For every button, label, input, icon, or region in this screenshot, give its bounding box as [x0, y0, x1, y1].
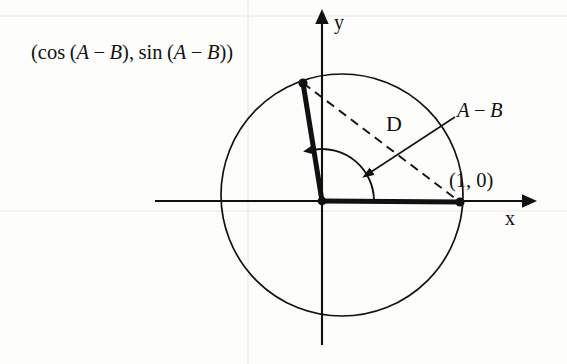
unit-point-label: (1, 0)	[449, 170, 493, 191]
variable-a-2: A	[174, 41, 187, 63]
variable-b-2: B	[207, 41, 220, 63]
initial-side-radius	[322, 201, 460, 202]
terminal-point-marker	[298, 78, 307, 87]
distance-segment-dashed	[303, 83, 460, 202]
variable-a-1: A	[76, 41, 89, 63]
paren-close: )	[226, 41, 233, 63]
angle-minus-sign: −	[474, 99, 486, 121]
comma-separator: ,	[129, 41, 134, 63]
minus-sign-2: −	[191, 41, 203, 63]
unit-point-marker	[455, 197, 464, 206]
x-axis-label: x	[505, 208, 515, 228]
paren-open: (	[31, 41, 38, 63]
terminal-side-radius	[303, 83, 322, 201]
y-axis-label: y	[334, 12, 344, 32]
inner-paren-open-2: (	[167, 41, 174, 63]
figure-canvas: (cos(A−B),sin(A−B)) y x D A−B (1, 0)	[0, 0, 567, 364]
inner-paren-close-1: )	[122, 41, 129, 63]
sine-text: sin	[139, 41, 163, 63]
distance-label: D	[386, 113, 402, 135]
angle-variable-b: B	[490, 99, 503, 121]
variable-b-1: B	[110, 41, 123, 63]
point-coordinates-label: (cos(A−B),sin(A−B))	[31, 42, 233, 63]
angle-label-leader	[371, 117, 455, 172]
origin-point	[318, 197, 327, 206]
unit-circle	[221, 74, 463, 316]
angle-label: A−B	[457, 100, 503, 121]
cosine-text: cos	[38, 41, 65, 63]
minus-sign-1: −	[94, 41, 106, 63]
angle-variable-a: A	[457, 99, 470, 121]
